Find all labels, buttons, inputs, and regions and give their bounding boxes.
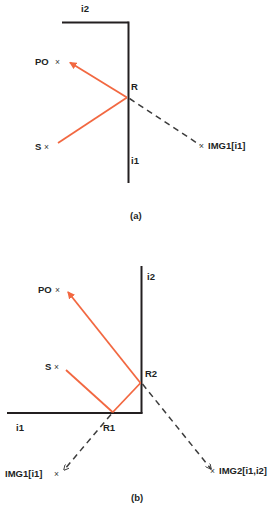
incident-ray-a xyxy=(58,98,127,144)
point-label-r1-b: R1 xyxy=(103,422,116,433)
virtual-ray-img1-a xyxy=(130,99,201,146)
virtual-ray-img2-b xyxy=(143,384,212,469)
point-marker-s-a: × xyxy=(44,142,49,152)
point-marker-img2-b: × xyxy=(210,466,215,476)
ray-tracing-diagram: i2 i1 PO × S × R × IMG1[i1] (a) xyxy=(0,0,279,512)
panel-caption-a: (a) xyxy=(130,210,142,221)
incident-ray-b xyxy=(66,370,113,412)
point-label-po-b: PO xyxy=(38,284,52,295)
reflected-ray-r1-r2-b xyxy=(113,383,141,413)
point-label-r-a: R xyxy=(131,81,138,92)
point-marker-po-a: × xyxy=(55,57,60,67)
point-label-r2-b: R2 xyxy=(145,368,157,379)
reflected-ray-r2-po-b xyxy=(68,292,141,383)
point-label-s-a: S xyxy=(35,141,41,152)
point-marker-s-b: × xyxy=(54,362,59,372)
point-label-po-a: PO xyxy=(35,56,49,67)
panel-a: i2 i1 PO × S × R × IMG1[i1] (a) xyxy=(35,3,245,221)
point-label-s-b: S xyxy=(45,361,51,372)
figure-root: i2 i1 PO × S × R × IMG1[i1] (a) xyxy=(0,0,279,512)
axis-label-i1-b: i1 xyxy=(16,422,25,433)
reflected-ray-a xyxy=(70,63,127,98)
point-marker-img1-b: × xyxy=(54,469,59,479)
point-label-img2-b: IMG2[i1,i2] xyxy=(219,465,267,476)
axis-label-i1-a: i1 xyxy=(131,155,140,166)
axis-label-i2-a: i2 xyxy=(81,3,89,14)
axis-label-i2-b: i2 xyxy=(147,271,155,282)
point-marker-po-b: × xyxy=(55,285,60,295)
point-label-img1-b: IMG1[i1] xyxy=(5,468,42,479)
point-marker-img1-a: × xyxy=(199,141,204,151)
point-label-img1-a: IMG1[i1] xyxy=(208,140,245,151)
panel-caption-b: (b) xyxy=(131,492,143,503)
panel-b: i2 i1 PO × S × R1 R2 IMG1[i1] × × IMG2[i… xyxy=(5,266,267,503)
